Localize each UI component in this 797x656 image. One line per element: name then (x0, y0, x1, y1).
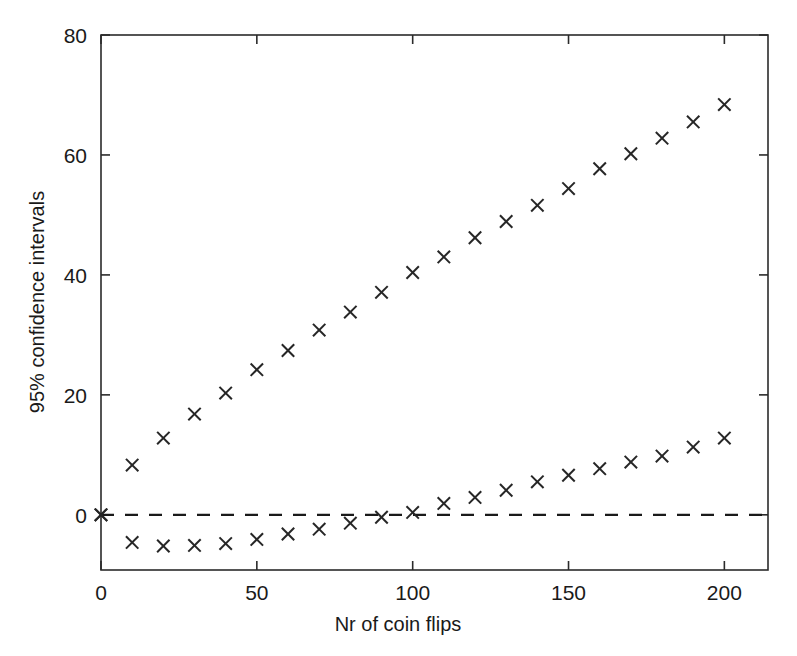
data-point-marker (438, 251, 450, 263)
plot-frame (101, 35, 768, 570)
data-point-marker (344, 306, 356, 318)
x-tick-label: 0 (95, 581, 107, 604)
data-point-marker (625, 148, 637, 160)
y-axis-title: 95% confidence intervals (26, 191, 48, 413)
data-point-marker (406, 266, 418, 278)
data-point-marker (251, 363, 263, 375)
data-point-marker (562, 469, 574, 481)
x-tick-label: 100 (395, 581, 430, 604)
scatter-plot: 050100150200020406080 Nr of coin flips 9… (0, 0, 797, 656)
data-point-marker (282, 344, 294, 356)
data-point-marker (219, 387, 231, 399)
data-point-marker (188, 539, 200, 551)
chart-figure: 050100150200020406080 Nr of coin flips 9… (0, 0, 797, 656)
data-point-marker (375, 511, 387, 523)
tick-labels: 050100150200020406080 (64, 24, 742, 604)
data-point-marker (344, 517, 356, 529)
data-point-marker (625, 456, 637, 468)
data-point-marker (593, 462, 605, 474)
data-point-marker (718, 432, 730, 444)
data-point-marker (157, 432, 169, 444)
data-point-marker (687, 441, 699, 453)
data-point-marker (406, 506, 418, 518)
axis-ticks (101, 35, 768, 570)
data-point-marker (219, 537, 231, 549)
data-point-marker (469, 232, 481, 244)
data-point-marker (469, 491, 481, 503)
data-point-marker (656, 450, 668, 462)
data-point-marker (251, 533, 263, 545)
data-point-marker (531, 199, 543, 211)
data-markers (95, 98, 731, 552)
data-point-marker (718, 98, 730, 110)
y-tick-label: 60 (64, 144, 87, 167)
data-point-marker (593, 163, 605, 175)
x-tick-label: 50 (245, 581, 268, 604)
data-point-marker (313, 324, 325, 336)
y-tick-label: 20 (64, 384, 87, 407)
y-tick-label: 40 (64, 264, 87, 287)
data-point-marker (313, 523, 325, 535)
data-point-marker (531, 476, 543, 488)
data-point-marker (157, 540, 169, 552)
data-point-marker (375, 286, 387, 298)
data-point-marker (438, 497, 450, 509)
data-point-marker (126, 536, 138, 548)
data-point-marker (687, 116, 699, 128)
x-tick-label: 150 (551, 581, 586, 604)
y-tick-label: 80 (64, 24, 87, 47)
data-point-marker (126, 459, 138, 471)
data-point-marker (656, 132, 668, 144)
data-point-marker (282, 528, 294, 540)
x-axis-title: Nr of coin flips (335, 613, 462, 635)
x-tick-label: 200 (707, 581, 742, 604)
y-tick-label: 0 (75, 504, 87, 527)
data-point-marker (500, 215, 512, 227)
data-point-marker (500, 484, 512, 496)
data-point-marker (188, 408, 200, 420)
data-point-marker (562, 182, 574, 194)
